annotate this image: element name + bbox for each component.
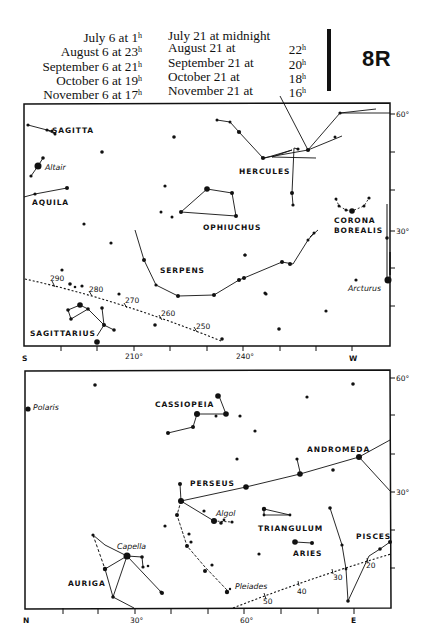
ra-label: 240° [236, 352, 254, 361]
dec-label: 60° [396, 110, 410, 119]
constellation-lines [93, 396, 391, 608]
ra-label: 60° [240, 616, 254, 625]
constellation-label: HERCULES [239, 167, 290, 176]
constellation-label: CORONA [334, 216, 376, 225]
lower-map-labels: CASSIOPEIA ANDROMEDA PERSEUS TRIANGULUM … [23, 374, 410, 625]
star-label: Capella [117, 542, 146, 551]
ecliptic-longitude-label: 290 [50, 274, 65, 283]
ecliptic-longitude-label: 250 [196, 322, 211, 331]
star-label: Pleiades [235, 582, 267, 591]
dec-label: 60° [396, 374, 410, 383]
direction-south: S [22, 354, 27, 363]
stars [25, 382, 392, 603]
ecliptic-longitude-label: 30 [333, 573, 343, 582]
constellation-label: ARIES [293, 549, 322, 558]
star-label: Algol [215, 509, 236, 518]
ecliptic-longitude-label: 20 [366, 561, 376, 570]
direction-west: W [349, 354, 358, 363]
ra-label: 30° [130, 616, 144, 625]
ecliptic-longitude-label: 280 [89, 285, 104, 294]
constellation-label: SAGITTA [52, 126, 94, 135]
star-charts: SAGITTA AQUILA HERCULES OPHIUCHUS CORONA… [0, 0, 428, 635]
constellation-label: PERSEUS [190, 479, 235, 488]
ecliptic-longitude-label: 50 [263, 597, 273, 606]
constellation-label: SERPENS [160, 266, 205, 275]
dec-label: 30° [396, 227, 410, 236]
ecliptic-ticks [52, 281, 197, 332]
constellation-label: CASSIOPEIA [155, 400, 214, 409]
constellation-label: SAGITTARIUS [30, 329, 96, 338]
constellation-label: BOREALIS [334, 226, 383, 235]
direction-east: E [351, 616, 356, 625]
ecliptic-ticks [264, 558, 368, 599]
star-label: Arcturus [347, 284, 381, 293]
constellation-label: AQUILA [32, 198, 69, 207]
star-label: Polaris [33, 403, 59, 412]
dec-label: 30° [396, 488, 410, 497]
ra-label: 210° [125, 352, 143, 361]
constellation-label: ANDROMEDA [307, 445, 370, 454]
constellation-label: TRIANGULUM [258, 524, 323, 533]
direction-north: N [23, 616, 29, 625]
constellation-label: PISCES [356, 532, 391, 541]
constellation-label: OPHIUCHUS [203, 223, 261, 232]
star-label: Altair [44, 163, 67, 172]
ecliptic-longitude-label: 270 [125, 296, 140, 305]
constellation-label: AURIGA [68, 579, 106, 588]
ecliptic-longitude-label: 40 [297, 587, 307, 596]
upper-map-labels: SAGITTA AQUILA HERCULES OPHIUCHUS CORONA… [22, 110, 410, 363]
ecliptic-longitude-label: 260 [161, 309, 176, 318]
